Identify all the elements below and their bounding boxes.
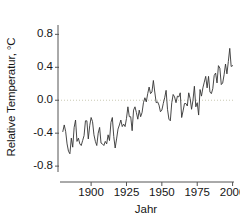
plot-area: [0, 0, 240, 223]
temperature-anomaly-chart: Relative Temperatur, °C 0.8 0.4 0.0 -0.4…: [0, 0, 240, 223]
temperature-series-line: [63, 48, 233, 153]
x-axis-tick-marks: [91, 182, 232, 186]
